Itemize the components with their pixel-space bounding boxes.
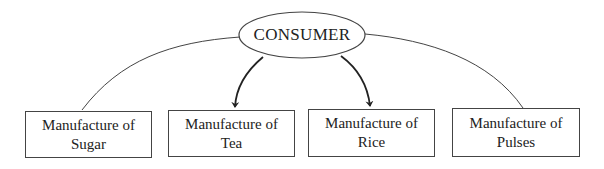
node-rice: Manufacture of Rice <box>308 109 435 157</box>
arrow-rice <box>341 56 370 106</box>
node-tea: Manufacture of Tea <box>168 110 295 157</box>
arrow-tea <box>235 57 263 107</box>
line-sugar <box>82 37 240 110</box>
node-line1: Manufacture of <box>325 114 418 133</box>
node-sugar: Manufacture of Sugar <box>25 111 152 158</box>
node-line2: Rice <box>358 133 386 152</box>
node-line1: Manufacture of <box>185 115 278 134</box>
consumer-node: CONSUMER <box>239 12 365 58</box>
node-line1: Manufacture of <box>470 114 563 133</box>
node-pulses: Manufacture of Pulses <box>452 108 580 157</box>
node-line1: Manufacture of <box>42 116 135 135</box>
node-line2: Sugar <box>71 135 106 154</box>
node-line2: Tea <box>221 134 242 153</box>
consumer-label: CONSUMER <box>254 25 351 45</box>
node-line2: Pulses <box>497 133 535 152</box>
line-pulses <box>365 34 523 108</box>
